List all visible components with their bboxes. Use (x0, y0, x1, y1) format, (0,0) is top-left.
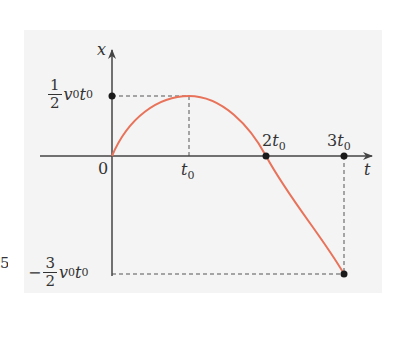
point-min (341, 271, 348, 278)
dashed-guides (112, 96, 344, 274)
x-axis-label: t (364, 162, 370, 178)
point-max-on-axis (109, 93, 116, 100)
tick-2t0: 2t0 (262, 133, 286, 152)
fraction-one-half: 1 2 (48, 78, 62, 111)
cropped-edge-glyph: 5 (0, 254, 8, 272)
position-time-plot (0, 0, 394, 348)
position-curve (112, 96, 344, 274)
tick-half-v0t0: 1 2 v0t0 (48, 78, 93, 111)
tick-neg-three-halves-v0t0: − 3 2 v0t0 (28, 256, 88, 289)
fraction-three-halves: 3 2 (43, 256, 57, 289)
tick-3t0: 3t0 (327, 133, 351, 152)
point-2t0 (263, 153, 270, 160)
point-3t0 (341, 153, 348, 160)
origin-label: 0 (98, 161, 108, 177)
tick-t0: t0 (181, 162, 194, 181)
y-axis-label: x (97, 42, 106, 58)
